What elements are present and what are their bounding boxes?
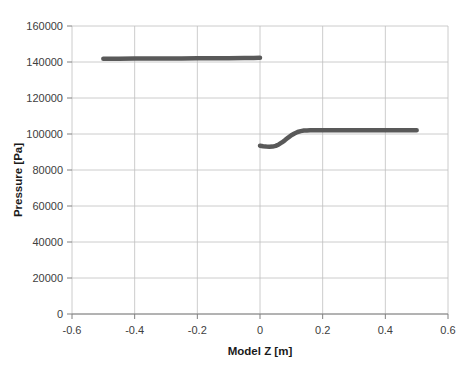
x-tick-label: 0 [257, 324, 263, 336]
y-tick-label: 120000 [26, 92, 63, 104]
y-tick-label: 20000 [32, 272, 63, 284]
x-tick-label: -0.4 [125, 324, 144, 336]
y-tick-label: 60000 [32, 200, 63, 212]
x-tick-label: -0.2 [188, 324, 207, 336]
x-tick-label: 0.4 [378, 324, 393, 336]
x-tick-label: -0.6 [63, 324, 82, 336]
y-tick-label: 100000 [26, 128, 63, 140]
data-series-line [103, 58, 260, 59]
y-axis-title: Pressure [Pa] [12, 143, 24, 217]
y-tick-label: 160000 [26, 20, 63, 32]
chart-container: -0.6-0.4-0.200.20.40.6 02000040000600008… [0, 0, 472, 376]
x-tick-label: 0.2 [315, 324, 330, 336]
x-tick-label: 0.6 [440, 324, 455, 336]
y-tick-label: 140000 [26, 56, 63, 68]
pressure-vs-model-z-chart: -0.6-0.4-0.200.20.40.6 02000040000600008… [0, 0, 472, 376]
y-tick-label: 0 [57, 308, 63, 320]
y-tick-label: 80000 [32, 164, 63, 176]
y-tick-label: 40000 [32, 236, 63, 248]
x-axis-title: Model Z [m] [228, 345, 293, 357]
y-axis-tick-labels: 0200004000060000800001000001200001400001… [26, 20, 63, 320]
